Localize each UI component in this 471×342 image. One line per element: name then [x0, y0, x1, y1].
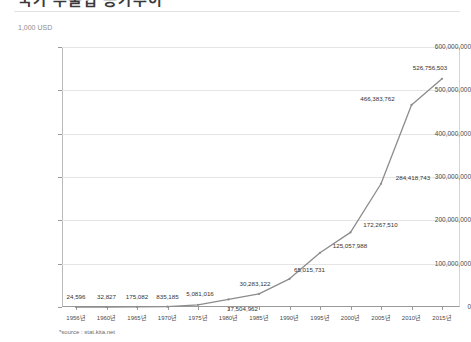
data-point-label: 32,827 [97, 292, 116, 299]
y-tick-label: 500,000,000 [413, 86, 471, 93]
x-tick-mark [198, 307, 199, 310]
x-tick-label: 2010년 [402, 313, 421, 322]
data-point-label: 466,383,762 [360, 94, 394, 101]
y-tick-label: 100,000,000 [413, 260, 471, 267]
x-tick-mark [137, 307, 138, 310]
x-tick-mark [381, 307, 382, 310]
x-tick-mark [351, 307, 352, 310]
data-point-label: 24,596 [67, 292, 86, 299]
y-tick-label: 200,000,000 [413, 216, 471, 223]
x-tick-label: 1965년 [127, 313, 146, 322]
x-tick-label: 1970년 [158, 313, 177, 322]
x-tick-mark [290, 307, 291, 310]
y-tick-mark [58, 47, 62, 48]
gridline [62, 90, 459, 91]
y-tick-label: 600,000,000 [413, 43, 471, 50]
x-tick-label: 1960년 [97, 313, 116, 322]
y-tick-mark [58, 177, 62, 178]
gridline [62, 264, 459, 265]
line-chart: 0100,000,000200,000,000300,000,000400,00… [0, 0, 471, 342]
data-point-label: 175,082 [126, 292, 148, 299]
x-tick-label: 1956년 [66, 313, 85, 322]
x-tick-mark [107, 307, 108, 310]
x-tick-label: 1995년 [310, 313, 329, 322]
x-tick-mark [168, 307, 169, 310]
y-tick-mark [58, 264, 62, 265]
y-tick-mark [58, 307, 62, 308]
data-point-label: 5,081,016 [186, 289, 214, 296]
source-note: *source : stat.kita.net [59, 329, 115, 335]
y-tick-label: 400,000,000 [413, 130, 471, 137]
x-tick-mark [412, 307, 413, 310]
data-point-label: 172,267,510 [363, 221, 397, 228]
x-tick-label: 1990년 [280, 313, 299, 322]
gridline [62, 134, 459, 135]
x-tick-mark [442, 307, 443, 310]
x-tick-mark [320, 307, 321, 310]
data-point-label: 835,185 [156, 292, 178, 299]
x-tick-label: 1980년 [219, 313, 238, 322]
x-tick-label: 1985년 [249, 313, 268, 322]
gridline [62, 47, 459, 48]
y-tick-mark [58, 90, 62, 91]
data-point-label: 17,504,962 [227, 305, 258, 312]
x-tick-label: 2005년 [371, 313, 390, 322]
x-tick-label: 2000년 [341, 313, 360, 322]
x-tick-mark [259, 307, 260, 310]
data-point-label: 284,418,743 [396, 173, 430, 180]
data-point-label: 526,756,503 [413, 63, 447, 70]
x-tick-label: 2015년 [432, 313, 451, 322]
data-point-label: 65,015,731 [294, 265, 325, 272]
x-tick-label: 1975년 [188, 313, 207, 322]
y-tick-mark [58, 220, 62, 221]
x-tick-mark [76, 307, 77, 310]
gridline [62, 220, 459, 221]
data-point-label: 125,057,988 [333, 241, 367, 248]
data-point-label: 30,283,122 [240, 279, 271, 286]
y-tick-mark [58, 134, 62, 135]
